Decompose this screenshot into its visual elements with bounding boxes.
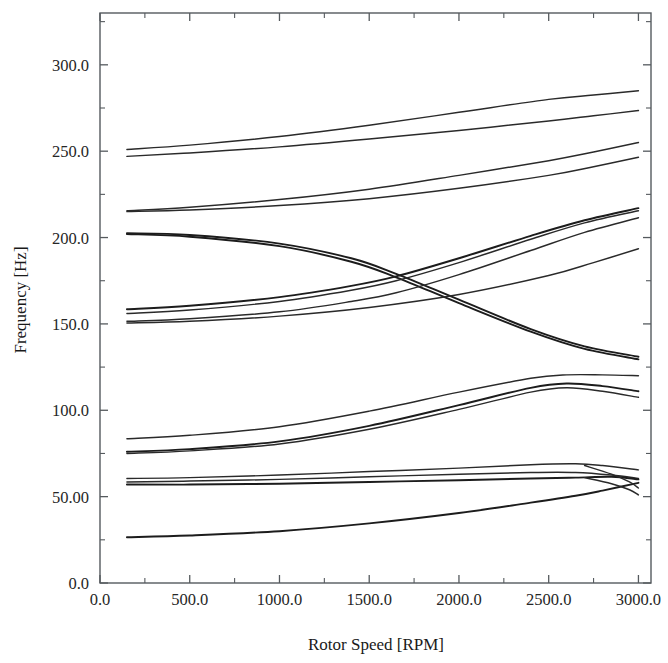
y-tick-label-0: 0.0 (68, 574, 89, 593)
y-tick-label-2: 100.0 (52, 401, 89, 420)
campbell-diagram-svg: 0.0500.01000.01500.02000.02500.03000.0 0… (0, 0, 668, 663)
x-axis-title: Rotor Speed [RPM] (308, 635, 444, 654)
figure-canvas: 0.0500.01000.01500.02000.02500.03000.0 0… (0, 0, 668, 663)
y-tick-label-1: 50.00 (52, 488, 89, 507)
y-tick-label-5: 250.0 (52, 142, 89, 161)
y-tick-label-6: 300.0 (52, 56, 89, 75)
x-tick-label-0: 0.0 (90, 590, 111, 609)
y-tick-label-4: 200.0 (52, 229, 89, 248)
y-tick-label-3: 150.0 (52, 315, 89, 334)
x-tick-label-4: 2000.0 (436, 590, 481, 609)
y-axis-title: Frequency [Hz] (11, 246, 30, 353)
x-tick-label-2: 1000.0 (257, 590, 302, 609)
x-tick-label-1: 500.0 (171, 590, 208, 609)
x-tick-label-5: 2500.0 (526, 590, 571, 609)
x-tick-label-6: 3000.0 (616, 590, 661, 609)
x-tick-label-3: 1500.0 (347, 590, 392, 609)
